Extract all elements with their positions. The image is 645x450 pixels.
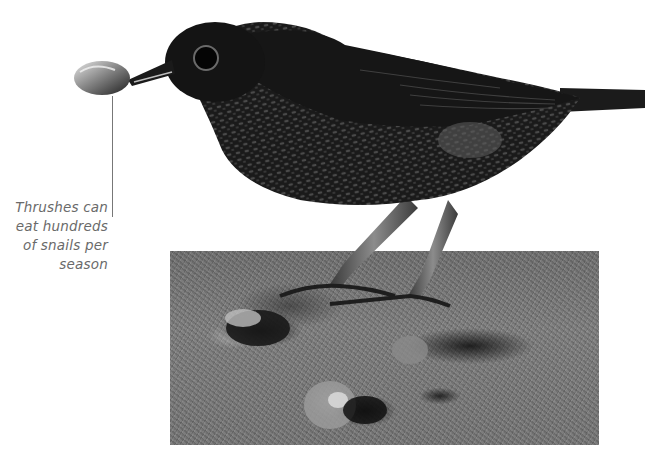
bird-legs — [280, 196, 458, 306]
caption: Thrushes can eat hundreds of snails per … — [0, 198, 108, 274]
caption-line: Thrushes can — [0, 198, 108, 217]
caption-line: eat hundreds — [0, 217, 108, 236]
ground-shells — [225, 309, 428, 429]
caption-line: season — [0, 255, 108, 274]
caption-line: of snails per — [0, 236, 108, 255]
caption-leader-line — [112, 96, 113, 217]
illustration: Thrushes can eat hundreds of snails per … — [0, 0, 645, 450]
snail-shell-icon — [74, 61, 130, 95]
